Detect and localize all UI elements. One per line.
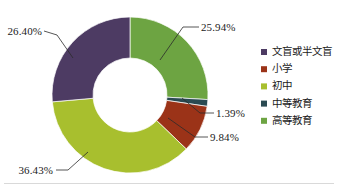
legend-item-label: 小学 (272, 62, 292, 74)
value-label-illiterate: 26.40% (7, 25, 42, 37)
legend-item-label: 初中 (272, 79, 292, 91)
value-label-primary-school: 9.84% (210, 131, 239, 143)
donut-chart-figure: 25.94% 1.39% 9.84% 36.43% 26.40% 文盲或半文盲小… (0, 0, 338, 188)
legend-item-label: 文盲或半文盲 (272, 45, 332, 57)
chart-canvas: 25.94% 1.39% 9.84% 36.43% 26.40% 文盲或半文盲小… (0, 0, 338, 188)
chart-legend: 文盲或半文盲小学初中中等教育高等教育 (261, 45, 332, 126)
value-label-secondary-education: 1.39% (216, 107, 245, 119)
donut-slices-group (52, 17, 208, 173)
legend-swatch (261, 101, 267, 107)
legend-swatch (261, 49, 267, 55)
legend-swatch (261, 66, 267, 72)
donut-slice[interactable] (130, 17, 208, 100)
legend-swatch (261, 83, 267, 89)
value-label-higher-education: 25.94% (201, 21, 236, 33)
donut-slice[interactable] (52, 17, 130, 102)
legend-swatch (261, 118, 267, 124)
legend-item-label: 高等教育 (272, 114, 312, 126)
legend-item-label: 中等教育 (272, 97, 312, 109)
value-label-junior-high: 36.43% (18, 164, 53, 176)
